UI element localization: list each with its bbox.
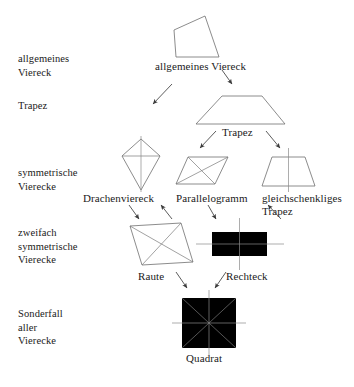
shape-rechteck	[196, 218, 284, 270]
edge-trapez-to-parallelogramm	[200, 131, 216, 148]
shape-trapez	[196, 96, 285, 124]
shape-label-rechteck: Rechteck	[226, 270, 268, 283]
shape-raute	[130, 223, 193, 265]
edge-rechteck-to-quadrat	[215, 272, 226, 288]
shape-label-parallelogramm: Parallelogramm	[176, 192, 248, 205]
diagram-canvas: allgemeines Viereck Trapez symmetrische …	[0, 0, 354, 387]
category-label-allgemeines-viereck: allgemeines Viereck	[18, 52, 69, 79]
shape-label-quadrat: Quadrat	[186, 352, 222, 365]
shape-allgemeines-viereck	[174, 16, 219, 57]
shape-quadrat	[172, 290, 246, 356]
edge-parallelogramm-to-raute	[161, 205, 172, 219]
edge-raute-to-quadrat	[176, 272, 187, 288]
category-label-zweifach-symmetrische-vierecke: zweifach symmetrische Vierecke	[18, 226, 78, 267]
category-label-sonderfall-aller-vierecke: Sonderfall aller Vierecke	[18, 307, 63, 348]
shape-label-trapez: Trapez	[222, 126, 253, 139]
category-label-symmetrische-vierecke: symmetrische Vierecke	[18, 166, 78, 193]
shape-gleichschenkliges-trapez	[262, 148, 315, 192]
edge-drachenviereck-to-raute	[129, 205, 139, 219]
edge-allgemeines-viereck-to-drachenviereck	[153, 84, 172, 104]
shape-label-raute: Raute	[138, 270, 164, 283]
shape-label-gleichschenkliges-trapez: gleichschenkliges Trapez	[262, 192, 342, 217]
shape-parallelogramm	[176, 157, 228, 184]
shape-drachenviereck	[122, 136, 160, 192]
shape-label-allgemeines-viereck: allgemeines Viereck	[155, 60, 246, 73]
category-label-trapez: Trapez	[18, 99, 47, 113]
edge-parallelogramm-to-rechteck	[208, 205, 216, 219]
shape-label-drachenviereck: Drachenviereck	[83, 192, 154, 205]
edge-trapez-to-gleichschenkliges-trapez	[266, 131, 280, 148]
